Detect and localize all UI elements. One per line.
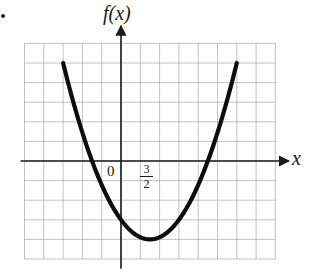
grid [25, 43, 276, 259]
y-axis-label: f(x) [103, 2, 131, 25]
graph-plot [0, 0, 312, 278]
fraction-denominator: 2 [140, 178, 153, 190]
fraction-numerator: 3 [140, 163, 153, 175]
vertex-x-tick-label: 3 2 [140, 163, 153, 190]
origin-label: 0 [107, 163, 115, 180]
x-axis-label: x [292, 147, 301, 170]
parabola-curve [63, 63, 237, 239]
